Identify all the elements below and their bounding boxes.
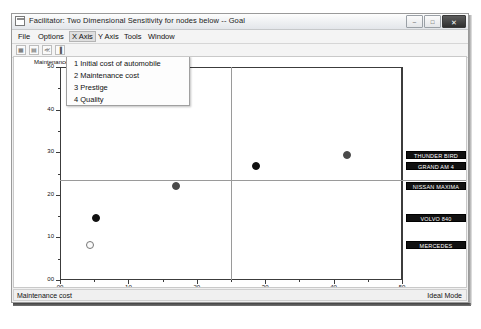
maximize-button[interactable]: □ bbox=[424, 15, 441, 28]
y-minor-tick bbox=[58, 216, 60, 217]
close-button[interactable]: ✕ bbox=[442, 15, 466, 28]
back-icon: ≪ bbox=[44, 47, 50, 53]
menu-item-x-axis[interactable]: X Axis bbox=[69, 31, 96, 42]
window-controls: – □ ✕ bbox=[406, 15, 466, 28]
bars-icon: ▐ bbox=[58, 47, 62, 53]
car-label[interactable]: VOLVO 840 bbox=[406, 214, 466, 222]
x-tick-label: 40 bbox=[329, 284, 339, 288]
menu-item-options[interactable]: Options bbox=[36, 32, 66, 41]
y-minor-tick bbox=[58, 174, 60, 175]
x-minor-tick bbox=[94, 280, 95, 282]
car-label[interactable]: NISSAN MAXIMA bbox=[406, 182, 466, 190]
y-tick bbox=[56, 67, 60, 68]
crosshair-vertical[interactable] bbox=[231, 67, 232, 280]
dropdown-item-3[interactable]: 3 Prestige bbox=[67, 81, 189, 93]
car-label[interactable]: GRAND AM 4 bbox=[406, 162, 466, 170]
dropdown-item-2[interactable]: 2 Maintenance cost bbox=[67, 69, 189, 81]
x-tick-label: 00 bbox=[55, 284, 65, 288]
back-button[interactable]: ≪ bbox=[42, 45, 52, 55]
y-minor-tick bbox=[58, 131, 60, 132]
data-point[interactable] bbox=[172, 182, 180, 190]
y-tick-label: 10 bbox=[40, 233, 54, 239]
car-label[interactable]: MERCEDES bbox=[406, 241, 466, 249]
y-tick bbox=[56, 195, 60, 196]
close-icon: ✕ bbox=[451, 18, 457, 25]
window-document-icon bbox=[15, 16, 25, 26]
y-minor-tick bbox=[58, 88, 60, 89]
menu-item-file[interactable]: File bbox=[16, 32, 32, 41]
menu-item-window[interactable]: Window bbox=[146, 32, 177, 41]
dropdown-item-1[interactable]: 1 Initial cost of automobile bbox=[67, 57, 189, 69]
table-icon: ▤ bbox=[31, 47, 37, 53]
title-bar: Facilitator: Two Dimensional Sensitivity… bbox=[12, 14, 468, 30]
y-tick-label: 20 bbox=[40, 191, 54, 197]
y-tick-label: 00 bbox=[40, 276, 54, 282]
x-tick-label: 30 bbox=[260, 284, 270, 288]
x-minor-tick bbox=[368, 280, 369, 282]
window-shadow-bottom bbox=[13, 303, 471, 306]
minimize-icon: – bbox=[413, 19, 416, 25]
crosshair-horizontal[interactable] bbox=[60, 180, 467, 181]
x-minor-tick bbox=[163, 280, 164, 282]
x-minor-tick bbox=[299, 280, 300, 282]
bars-button[interactable]: ▐ bbox=[55, 45, 65, 55]
y-minor-tick bbox=[58, 259, 60, 260]
minimize-button[interactable]: – bbox=[406, 15, 423, 28]
car-label[interactable]: THUNDER BIRD bbox=[406, 151, 466, 159]
x-axis-dropdown-menu: 1 Initial cost of automobile 2 Maintenan… bbox=[66, 56, 190, 106]
plot-client-area: Maintenance cost 00102030405000102030405… bbox=[13, 56, 467, 288]
y-tick-label: 50 bbox=[40, 63, 54, 69]
menu-item-y-axis[interactable]: Y Axis bbox=[96, 32, 121, 41]
grid-icon: ▦ bbox=[18, 47, 24, 53]
grid-button[interactable]: ▦ bbox=[16, 45, 26, 55]
y-tick-label: 30 bbox=[40, 148, 54, 154]
y-tick bbox=[56, 237, 60, 238]
status-bar: Maintenance cost Ideal Mode bbox=[13, 289, 467, 301]
status-left-text: Maintenance cost bbox=[17, 292, 72, 299]
status-right-text: Ideal Mode bbox=[427, 292, 462, 299]
maximize-icon: □ bbox=[431, 19, 435, 25]
menu-bar: File Options X Axis Y Axis Tools Window bbox=[12, 30, 468, 44]
data-point[interactable] bbox=[86, 241, 94, 249]
x-tick-label: 10 bbox=[123, 284, 133, 288]
table-button[interactable]: ▤ bbox=[29, 45, 39, 55]
window-title: Facilitator: Two Dimensional Sensitivity… bbox=[29, 16, 245, 25]
window-shadow-right bbox=[469, 15, 472, 305]
menu-item-tools[interactable]: Tools bbox=[122, 32, 144, 41]
x-tick-label: 50 bbox=[397, 284, 407, 288]
y-tick-label: 40 bbox=[40, 106, 54, 112]
dropdown-item-4[interactable]: 4 Quality bbox=[67, 93, 189, 105]
y-tick bbox=[56, 152, 60, 153]
x-minor-tick bbox=[231, 280, 232, 282]
application-window: Facilitator: Two Dimensional Sensitivity… bbox=[11, 13, 469, 303]
data-point[interactable] bbox=[252, 162, 260, 170]
y-tick bbox=[56, 110, 60, 111]
x-tick-label: 20 bbox=[192, 284, 202, 288]
